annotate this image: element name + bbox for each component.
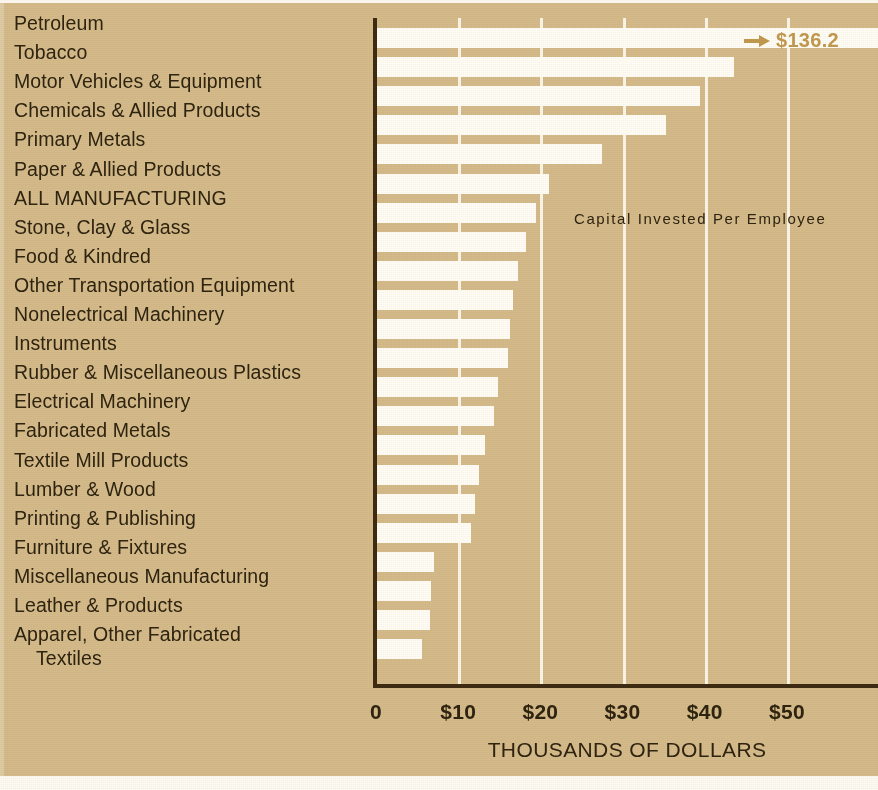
category-label: Stone, Clay & Glass — [14, 216, 190, 239]
bar — [376, 232, 526, 252]
category-label-text: Tobacco — [14, 41, 87, 63]
bar — [376, 435, 485, 455]
x-axis-title: THOUSANDS OF DOLLARS — [376, 738, 878, 762]
category-label-text: Other Transportation Equipment — [14, 274, 294, 296]
category-label: Other Transportation Equipment — [14, 274, 294, 297]
peak-value-label: $136.2 — [776, 29, 839, 52]
category-label: Tobacco — [14, 41, 87, 64]
left-edge-highlight — [0, 0, 4, 790]
peak-value-callout: $136.2 — [744, 29, 839, 52]
gridline — [787, 18, 790, 685]
category-label-text: Miscellaneous Manufacturing — [14, 565, 269, 587]
x-tick-label: $30 — [605, 700, 641, 724]
category-label-text: Motor Vehicles & Equipment — [14, 70, 262, 92]
x-tick-label: $10 — [440, 700, 476, 724]
top-margin — [0, 0, 878, 3]
bar — [376, 552, 434, 572]
x-tick-label: $40 — [687, 700, 723, 724]
bar — [376, 290, 513, 310]
category-label: Miscellaneous Manufacturing — [14, 565, 269, 588]
category-label-text: Paper & Allied Products — [14, 158, 221, 180]
bar — [376, 174, 549, 194]
category-label: Nonelectrical Machinery — [14, 303, 224, 326]
bar — [376, 377, 498, 397]
category-label: Paper & Allied Products — [14, 158, 221, 181]
category-label-text: Primary Metals — [14, 128, 145, 150]
bar — [376, 203, 536, 223]
category-label: Chemicals & Allied Products — [14, 99, 261, 122]
bar — [376, 144, 602, 164]
bar — [376, 639, 422, 659]
category-label: Primary Metals — [14, 128, 145, 151]
bar — [376, 261, 518, 281]
category-label: ALL MANUFACTURING — [14, 187, 227, 210]
category-label: Leather & Products — [14, 594, 183, 617]
category-label: Fabricated Metals — [14, 419, 171, 442]
category-label: Furniture & Fixtures — [14, 536, 187, 559]
category-label-text: ALL MANUFACTURING — [14, 187, 227, 209]
x-tick-label: $50 — [769, 700, 805, 724]
arrow-right-icon — [744, 34, 770, 48]
category-label-text: Printing & Publishing — [14, 507, 196, 529]
bar — [376, 523, 471, 543]
category-label-text: Instruments — [14, 332, 117, 354]
category-label-text: Food & Kindred — [14, 245, 151, 267]
bar — [376, 348, 508, 368]
category-label-text: Fabricated Metals — [14, 419, 171, 441]
category-label-text: Leather & Products — [14, 594, 183, 616]
category-label-text: Textile Mill Products — [14, 449, 188, 471]
gridline — [705, 18, 708, 685]
bar — [376, 610, 430, 630]
category-label-text: Apparel, Other Fabricated — [14, 623, 241, 645]
category-label: Motor Vehicles & Equipment — [14, 70, 262, 93]
bottom-margin — [0, 776, 878, 790]
y-axis-line — [373, 18, 377, 688]
bar — [376, 115, 666, 135]
bar — [376, 57, 734, 77]
category-label-text: Nonelectrical Machinery — [14, 303, 224, 325]
category-label-text: Chemicals & Allied Products — [14, 99, 261, 121]
category-label: Electrical Machinery — [14, 390, 190, 413]
category-label: Instruments — [14, 332, 117, 355]
category-label: Lumber & Wood — [14, 478, 156, 501]
plot-area — [376, 18, 878, 685]
category-label: Textile Mill Products — [14, 449, 188, 472]
chart-annotation: Capital Invested Per Employee — [574, 210, 826, 227]
category-label: Food & Kindred — [14, 245, 151, 268]
x-tick-label: $20 — [522, 700, 558, 724]
chart-page: CAPITAL INVESTED PER EMPLOYEE IN MANUFAC… — [0, 0, 878, 790]
category-label-text: Petroleum — [14, 12, 104, 34]
x-axis-line — [373, 684, 878, 688]
category-label-text: Lumber & Wood — [14, 478, 156, 500]
bar — [376, 406, 494, 426]
category-label-text: Rubber & Miscellaneous Plastics — [14, 361, 301, 383]
x-tick-label: 0 — [370, 700, 382, 724]
category-label-text: Electrical Machinery — [14, 390, 190, 412]
category-label: Printing & Publishing — [14, 507, 196, 530]
category-label: Rubber & Miscellaneous Plastics — [14, 361, 301, 384]
bar — [376, 86, 700, 106]
category-label-text: Furniture & Fixtures — [14, 536, 187, 558]
bar — [376, 465, 479, 485]
bar — [376, 581, 431, 601]
bar — [376, 319, 510, 339]
category-label-continuation: Textiles — [14, 647, 241, 670]
bar — [376, 494, 475, 514]
category-label-text: Stone, Clay & Glass — [14, 216, 190, 238]
category-label: Apparel, Other FabricatedTextiles — [14, 623, 241, 670]
category-label: Petroleum — [14, 12, 104, 35]
